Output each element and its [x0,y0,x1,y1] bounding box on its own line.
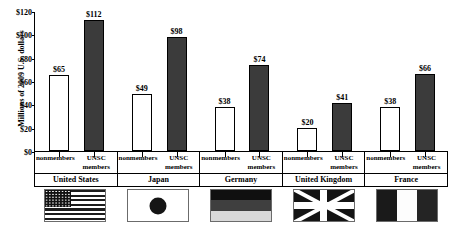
bar-value-label: $41 [336,93,348,102]
bar-value-label: $98 [171,27,183,36]
bar-germany-nonmembers [215,107,235,151]
series-label-nonmembers: nonmembers [365,152,406,173]
bar-value-label: $66 [419,64,431,73]
flag-cell [34,189,117,225]
bar-value-label: $49 [136,84,148,93]
category-cell-france: nonmembersUNSCmembersFrance [365,152,447,186]
series-label-nonmembers: nonmembers [283,152,324,173]
flag-germany-icon [210,189,272,222]
series-label-unsc-members: UNSCmembers [406,152,447,173]
category-cell-united-states: nonmembersUNSCmembersUnited States [35,152,118,186]
series-label-nonmembers: nonmembers [200,152,241,173]
bar-value-label: $65 [53,65,65,74]
flag-cell [117,189,200,225]
series-label-unsc-members: UNSCmembers [241,152,282,173]
category-cell-japan: nonmembersUNSCmembersJapan [118,152,201,186]
category-label-table: nonmembersUNSCmembersUnited Statesnonmem… [34,152,448,187]
flag-united-states-icon [44,189,106,222]
country-label-united-kingdom: United Kingdom [283,173,365,187]
country-label-germany: Germany [200,173,282,187]
bar-france-nonmembers [380,107,400,151]
bar-japan-nonmembers [132,94,152,151]
flag-united-kingdom-icon [293,189,355,222]
flag-row [34,189,448,225]
series-label-unsc-members: UNSCmembers [158,152,199,173]
country-label-japan: Japan [118,173,200,187]
series-label-unsc-members: UNSCmembers [76,152,117,173]
country-label-france: France [365,173,447,187]
chart-figure: Millions of 2009 U.S. dollars $0$20$40$6… [0,0,462,227]
series-label-nonmembers: nonmembers [35,152,76,173]
country-label-united-states: United States [35,173,117,187]
y-axis-tick-mark [32,82,35,83]
flag-cell [282,189,365,225]
bar-germany-unsc-members [249,65,269,151]
bar-united-states-unsc-members [84,20,104,151]
y-axis-tick-mark [32,35,35,36]
flag-cell [200,189,283,225]
bar-value-label: $20 [301,118,313,127]
bar-united-kingdom-nonmembers [297,128,317,151]
category-cell-germany: nonmembersUNSCmembersGermany [200,152,283,186]
flag-japan-icon [127,189,189,222]
y-axis-tick-mark [32,105,35,106]
y-axis-tick-mark [32,59,35,60]
y-axis-tick-mark [32,129,35,130]
bar-united-states-nonmembers [49,75,69,151]
bar-japan-unsc-members [167,37,187,151]
series-label-nonmembers: nonmembers [118,152,159,173]
bar-value-label: $74 [253,55,265,64]
flag-cell [365,189,448,225]
bar-france-unsc-members [415,74,435,151]
flag-france-icon [376,189,438,222]
bar-value-label: $38 [219,97,231,106]
category-cell-united-kingdom: nonmembersUNSCmembersUnited Kingdom [283,152,366,186]
bar-value-label: $38 [384,97,396,106]
bar-value-label: $112 [86,10,102,19]
plot-area: $0$20$40$60$80$100$120$65$112$49$98$38$7… [34,12,448,152]
bar-united-kingdom-unsc-members [332,103,352,151]
series-label-unsc-members: UNSCmembers [324,152,365,173]
y-axis-tick-mark [32,12,35,13]
